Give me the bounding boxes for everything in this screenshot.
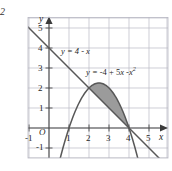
x-tick-label-5: 5 xyxy=(146,134,151,143)
y-tick-label-1: 1 xyxy=(39,104,44,113)
x-tick-label-neg1: -1 xyxy=(25,134,33,143)
x-axis-label: x xyxy=(159,133,163,143)
y-tick-label-neg1: -1 xyxy=(36,143,44,152)
x-tick-label-4: 4 xyxy=(126,134,131,143)
graph-figure: 2 xyxy=(0,0,172,171)
parabola-eq-exponent: 2 xyxy=(133,66,136,72)
x-tick-label-3: 3 xyxy=(106,134,111,143)
y-tick-label-3: 3 xyxy=(38,64,43,73)
parabola-eq-constant: -4 + 5 xyxy=(100,67,120,77)
y-tick-label-2: 2 xyxy=(38,84,43,93)
parabola-equation-label: y = -4 + 5x -x2 xyxy=(86,66,136,76)
x-tick-label-1: 1 xyxy=(66,134,71,143)
line-equation-label: y = 4 - x xyxy=(61,47,90,56)
coordinate-plot xyxy=(0,0,172,171)
parabola-eq-lhs: y = xyxy=(86,67,100,77)
x-tick-label-2: 2 xyxy=(86,134,91,143)
origin-label: O xyxy=(39,128,46,137)
y-tick-label-4: 4 xyxy=(38,44,43,53)
y-tick-label-5: 5 xyxy=(38,24,43,33)
y-axis-label: y xyxy=(39,15,43,25)
